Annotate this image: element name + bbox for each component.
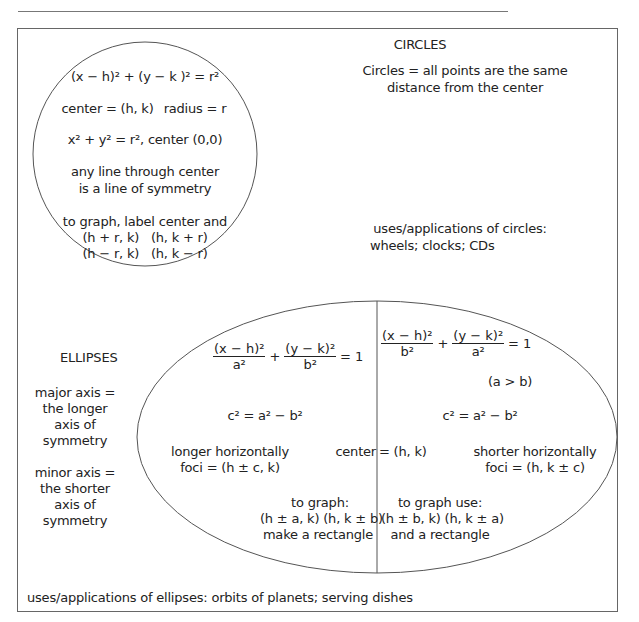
major-axis-line4: symmetry (25, 432, 125, 449)
vertical-graphing-line2: (h ± b, k) (h, k ± a) (381, 510, 501, 527)
major-axis-line1: major axis = (25, 384, 125, 401)
numerator: (y − k)² (284, 341, 336, 357)
numerator: (x − h)² (213, 341, 265, 357)
minor-axis-line4: symmetry (25, 512, 125, 529)
ellipse-center-left: center (320, 443, 376, 460)
fraction-y: (y − k)² a² (452, 328, 504, 359)
major-axis-line2: the longer (25, 400, 125, 417)
horizontal-c-relation: c² = a² − b² (215, 407, 315, 424)
vertical-ellipse-equation: (x − h)² b² + (y − k)² a² = 1 (381, 328, 531, 359)
fraction-x: (x − h)² b² (381, 328, 433, 359)
horizontal-graphing-line1: to graph: (265, 494, 375, 511)
denominator: b² (303, 357, 316, 372)
circle-graphing-line2: (h + r, k) (h, k + r) (40, 229, 250, 246)
horizontal-ellipse-equation: (x − h)² a² + (y − k)² b² = 1 (213, 341, 363, 372)
circle-radius-label: radius = r (160, 100, 230, 117)
numerator: (x − h)² (381, 328, 433, 344)
circle-symmetry-line1: any line through center (40, 163, 250, 180)
horizontal-foci: foci = (h ± c, k) (160, 459, 300, 476)
ellipses-uses: uses/applications of ellipses: orbits of… (27, 589, 413, 606)
horizontal-graphing-line3: make a rectangle (260, 526, 373, 543)
circles-title: CIRCLES (380, 36, 460, 53)
circles-uses-line2: wheels; clocks; CDs (370, 237, 500, 254)
circle-origin-form: x² + y² = r², center (0,0) (40, 131, 250, 148)
plus-sign: + (269, 349, 280, 364)
vertical-graphing-line1: to graph use: (385, 494, 495, 511)
circle-standard-form: (x − h)² + (y − k )² = r² (40, 68, 250, 85)
fraction-x: (x − h)² a² (213, 341, 265, 372)
vertical-graphing-line3: and a rectangle (385, 526, 495, 543)
minor-axis-line3: axis of (25, 496, 125, 513)
equals-one: = 1 (508, 336, 531, 351)
denominator: b² (400, 344, 413, 359)
vertical-orientation: shorter horizontally (460, 443, 610, 460)
vertical-condition: (a > b) (480, 373, 540, 390)
circle-graphing-line1: to graph, label center and (40, 213, 250, 230)
horizontal-graphing-line2: (h ± a, k) (h, k ± b) (260, 510, 376, 527)
denominator: a² (233, 357, 246, 372)
circle-center-label: center = (h, k) (60, 100, 155, 117)
ellipse-center-right: = (h, k) (379, 443, 439, 460)
minor-axis-line1: minor axis = (25, 464, 125, 481)
circles-definition-line2: distance from the center (360, 79, 570, 96)
plus-sign: + (437, 336, 448, 351)
minor-axis-line2: the shorter (25, 480, 125, 497)
denominator: a² (472, 344, 485, 359)
major-axis-line3: axis of (25, 416, 125, 433)
circle-symmetry-line2: is a line of symmetry (40, 180, 250, 197)
horizontal-orientation: longer horizontally (160, 443, 300, 460)
circle-graphing-line3: (h − r, k) (h, k − r) (40, 245, 250, 262)
numerator: (y − k)² (452, 328, 504, 344)
ellipses-title: ELLIPSES (60, 349, 140, 366)
vertical-c-relation: c² = a² − b² (430, 407, 530, 424)
fraction-y: (y − k)² b² (284, 341, 336, 372)
vertical-foci: foci = (h, k ± c) (460, 459, 610, 476)
circles-uses-line1: uses/applications of circles: (365, 220, 555, 237)
equals-one: = 1 (340, 349, 363, 364)
circles-definition-line1: Circles = all points are the same (360, 62, 570, 79)
